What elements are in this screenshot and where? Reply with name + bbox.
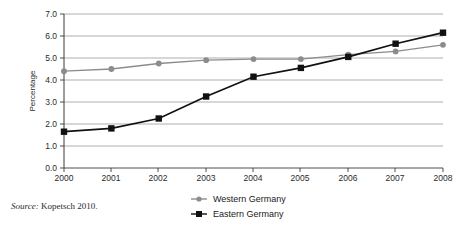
data-point-marker <box>345 54 351 60</box>
data-point-marker <box>203 93 209 99</box>
y-tick-label: 3.0 <box>45 97 57 107</box>
x-tick-label: 2006 <box>339 173 358 183</box>
gridlines <box>64 14 443 168</box>
data-point-marker <box>251 56 257 62</box>
y-tick-label: 7.0 <box>45 9 57 19</box>
chart-legend: Western Germany Eastern Germany <box>191 194 286 219</box>
source-text: Kopetsch 2010. <box>41 201 98 211</box>
y-tick-label: 1.0 <box>45 141 57 151</box>
line-chart: 7.0 6.0 5.0 4.0 3.0 2.0 1.0 0.0 Percenta… <box>0 0 459 230</box>
x-tick-label: 2005 <box>291 173 310 183</box>
x-tick-label: 2003 <box>197 173 216 183</box>
data-point-marker <box>108 125 114 131</box>
x-tick-label: 2007 <box>386 173 405 183</box>
x-tick-marks <box>64 168 443 172</box>
legend-item-eastern-germany[interactable]: Eastern Germany <box>191 209 284 219</box>
data-point-marker <box>440 30 446 36</box>
y-tick-marks <box>60 14 64 168</box>
y-tick-label: 4.0 <box>45 75 57 85</box>
y-tick-label: 2.0 <box>45 119 57 129</box>
data-point-marker <box>392 41 398 47</box>
y-axis-tick-labels: 7.0 6.0 5.0 4.0 3.0 2.0 1.0 0.0 <box>45 9 57 173</box>
legend-label-eastern-germany: Eastern Germany <box>213 209 284 219</box>
data-point-marker <box>108 66 114 72</box>
source-note: Source: Kopetsch 2010. <box>11 201 97 211</box>
source-label: Source: <box>11 201 39 211</box>
x-tick-label: 2008 <box>434 173 453 183</box>
x-tick-label: 2004 <box>244 173 263 183</box>
legend-label-western-germany: Western Germany <box>213 194 286 204</box>
y-tick-label: 0.0 <box>45 163 57 173</box>
data-point-marker <box>61 68 67 74</box>
data-point-marker <box>298 56 304 62</box>
y-tick-label: 6.0 <box>45 31 57 41</box>
series-line <box>64 33 443 132</box>
x-tick-label: 2002 <box>149 173 168 183</box>
data-point-marker <box>156 115 162 121</box>
figure-container: 7.0 6.0 5.0 4.0 3.0 2.0 1.0 0.0 Percenta… <box>0 0 459 230</box>
data-series-layer <box>61 30 446 135</box>
series-eastern-germany <box>61 30 446 135</box>
legend-item-western-germany[interactable]: Western Germany <box>191 194 286 204</box>
data-point-marker <box>250 74 256 80</box>
y-axis-title: Percentage <box>28 70 37 111</box>
data-point-marker <box>440 42 446 48</box>
data-point-marker <box>393 49 399 55</box>
x-tick-label: 2001 <box>102 173 121 183</box>
data-point-marker <box>203 57 209 63</box>
x-axis-tick-labels: 2000 2001 2002 2003 2004 2005 2006 2007 … <box>55 173 453 183</box>
data-point-marker <box>298 65 304 71</box>
data-point-marker <box>61 129 67 135</box>
y-tick-label: 5.0 <box>45 53 57 63</box>
data-point-marker <box>156 61 162 67</box>
x-tick-label: 2000 <box>55 173 74 183</box>
